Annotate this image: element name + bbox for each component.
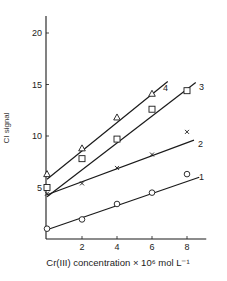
series-label: 4 xyxy=(163,83,168,93)
triangle-marker xyxy=(79,145,86,151)
circle-marker xyxy=(184,171,190,177)
series-4: 4 xyxy=(44,81,168,179)
triangle-marker xyxy=(149,90,156,96)
circle-marker xyxy=(79,217,85,223)
x-axis-label: Cr(III) concentration × 10⁶ mol L⁻¹ xyxy=(46,257,189,268)
y-tick-label: 20 xyxy=(32,28,42,38)
square-marker xyxy=(79,156,85,162)
triangle-marker xyxy=(44,171,51,177)
circle-marker xyxy=(114,201,120,207)
series-label: 1 xyxy=(199,172,204,182)
square-marker xyxy=(149,106,155,112)
x-tick-label: 2 xyxy=(79,242,84,252)
fit-line xyxy=(47,82,196,196)
square-marker xyxy=(184,88,190,94)
y-tick-label: 10 xyxy=(32,131,42,141)
circle-marker xyxy=(149,190,155,196)
axes: 51015202468 xyxy=(32,16,206,252)
y-axis-label: CI signal xyxy=(2,112,11,143)
x-tick-label: 8 xyxy=(184,242,189,252)
square-marker xyxy=(114,136,120,142)
chart: 51015202468 1234 CI signal Cr(III) conce… xyxy=(0,0,227,281)
fit-line xyxy=(47,177,199,230)
circle-marker xyxy=(44,226,50,232)
series-2: 2 xyxy=(45,130,203,196)
y-tick-label: 15 xyxy=(32,80,42,90)
series-label: 2 xyxy=(198,139,203,149)
series-3: 3 xyxy=(44,82,204,197)
series-group: 1234 xyxy=(44,81,204,231)
x-marker xyxy=(185,130,189,134)
x-tick-label: 4 xyxy=(114,242,119,252)
y-tick-label: 5 xyxy=(37,183,42,193)
square-marker xyxy=(44,185,50,191)
series-label: 3 xyxy=(199,82,204,92)
x-tick-label: 6 xyxy=(149,242,154,252)
triangle-marker xyxy=(114,114,121,120)
